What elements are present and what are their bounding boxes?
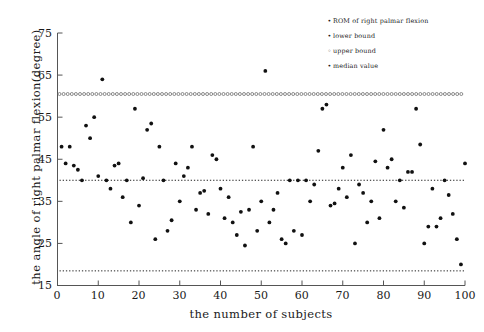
reference-lines	[58, 93, 464, 272]
plot-canvas	[0, 0, 484, 332]
data-points	[60, 69, 467, 266]
axes-lines	[57, 33, 465, 286]
chart-figure: the angle of right palmar flexion(degree…	[0, 0, 484, 332]
axis-ticks	[58, 33, 466, 286]
